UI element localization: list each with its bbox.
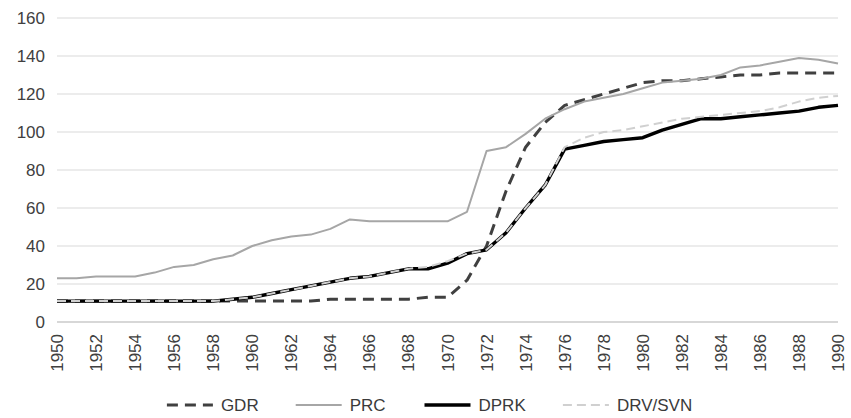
legend-label-gdr: GDR (221, 396, 259, 415)
x-tick-label: 1974 (517, 334, 536, 372)
x-tick-label: 1964 (321, 334, 340, 372)
legend-label-dprk: DPRK (479, 396, 527, 415)
y-tick-label: 0 (36, 313, 45, 332)
series-line-drv-svn (57, 96, 838, 301)
x-tick-label: 1968 (399, 334, 418, 372)
x-tick-label: 1956 (165, 334, 184, 372)
chart-container: 020406080100120140160 195019521954195619… (0, 0, 851, 418)
x-tick-label: 1962 (282, 334, 301, 372)
y-tick-label: 160 (17, 9, 45, 28)
y-tick-label: 120 (17, 85, 45, 104)
x-tick-label: 1970 (439, 334, 458, 372)
gridlines (57, 18, 838, 322)
x-tick-label: 1978 (595, 334, 614, 372)
y-tick-label: 80 (26, 161, 45, 180)
y-tick-label: 60 (26, 199, 45, 218)
chart-legend: GDRPRCDPRKDRV/SVN (167, 396, 692, 415)
legend-label-prc: PRC (350, 396, 386, 415)
x-tick-label: 1952 (87, 334, 106, 372)
x-tick-label: 1988 (790, 334, 809, 372)
x-tick-label: 1960 (243, 334, 262, 372)
x-tick-label: 1958 (204, 334, 223, 372)
x-tick-label: 1972 (478, 334, 497, 372)
x-tick-label: 1976 (556, 334, 575, 372)
y-tick-label: 100 (17, 123, 45, 142)
x-tick-label: 1980 (634, 334, 653, 372)
y-axis-tick-labels: 020406080100120140160 (17, 9, 45, 332)
y-tick-label: 20 (26, 275, 45, 294)
x-tick-label: 1984 (712, 334, 731, 372)
x-axis-tick-labels: 1950195219541956195819601962196419661968… (48, 334, 848, 372)
legend-label-drv-svn: DRV/SVN (617, 396, 692, 415)
x-tick-label: 1986 (751, 334, 770, 372)
series-line-prc (57, 58, 838, 278)
x-tick-label: 1966 (360, 334, 379, 372)
series-line-dprk (57, 105, 838, 301)
x-tick-label: 1990 (829, 334, 848, 372)
line-chart: 020406080100120140160 195019521954195619… (0, 0, 851, 418)
x-tick-label: 1982 (673, 334, 692, 372)
x-tick-label: 1950 (48, 334, 67, 372)
x-tick-label: 1954 (126, 334, 145, 372)
y-tick-label: 40 (26, 237, 45, 256)
y-tick-label: 140 (17, 47, 45, 66)
